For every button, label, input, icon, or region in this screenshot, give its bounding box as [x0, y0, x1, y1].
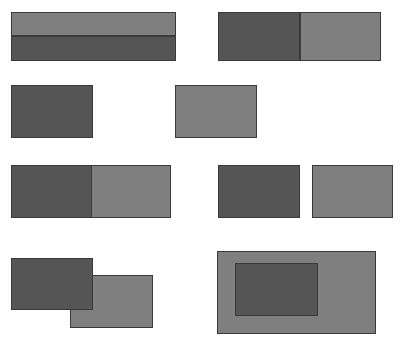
rect-pair-contains [0, 0, 405, 343]
dark-rectangle [235, 263, 318, 316]
